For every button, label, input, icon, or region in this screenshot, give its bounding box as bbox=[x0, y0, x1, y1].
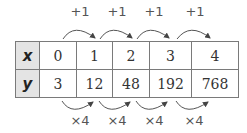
row-header-y: y bbox=[16, 70, 40, 98]
table-cell: 768 bbox=[192, 70, 239, 98]
top-arrow-label: +1 bbox=[144, 4, 163, 19]
row-header-x: x bbox=[16, 42, 40, 70]
table-row-x: x 0 1 2 3 4 bbox=[16, 42, 239, 70]
table-row-y: y 3 12 48 192 768 bbox=[16, 70, 239, 98]
table-cell: 3 bbox=[150, 42, 192, 70]
bottom-arrow-icons bbox=[62, 101, 208, 109]
table-cell: 0 bbox=[40, 42, 77, 70]
table-cell: 2 bbox=[113, 42, 150, 70]
table-cell: 48 bbox=[113, 70, 150, 98]
top-arrow-icons bbox=[63, 30, 210, 39]
bottom-arrow-label: ×4 bbox=[70, 113, 89, 128]
top-arrow-label: +1 bbox=[70, 4, 89, 19]
bottom-arrow-label: ×4 bbox=[184, 113, 203, 128]
table-cell: 12 bbox=[77, 70, 113, 98]
bottom-arrow-label: ×4 bbox=[107, 113, 126, 128]
xy-table: x 0 1 2 3 4 y 3 12 48 192 768 bbox=[15, 41, 239, 98]
table-cell: 1 bbox=[77, 42, 113, 70]
top-arrow-label: +1 bbox=[185, 4, 204, 19]
table-cell: 192 bbox=[150, 70, 192, 98]
table-cell: 3 bbox=[40, 70, 77, 98]
table-cell: 4 bbox=[192, 42, 239, 70]
top-arrow-label: +1 bbox=[107, 4, 126, 19]
bottom-arrow-label: ×4 bbox=[144, 113, 163, 128]
